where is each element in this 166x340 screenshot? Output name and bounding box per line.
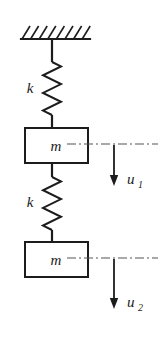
spring-2-label-k: k (27, 194, 34, 210)
displacement-u2-arrowhead (110, 298, 118, 309)
displacement-group: u 1 u 2 (67, 144, 158, 313)
displacement-u2-label: u (127, 294, 135, 310)
support-hatch-stroke (65, 26, 73, 39)
support-hatch-stroke (31, 26, 39, 39)
fixed-support-ceiling (21, 26, 90, 39)
support-hatch-stroke (39, 26, 47, 39)
support-hatching (22, 26, 90, 39)
spring-1-label-k: k (27, 80, 34, 96)
support-hatch-stroke (82, 26, 90, 39)
support-hatch-stroke (48, 26, 56, 39)
displacement-u2-subscript: 2 (138, 302, 143, 313)
displacement-u1-arrowhead (110, 175, 118, 186)
displacement-u1-label: u (127, 171, 135, 187)
support-hatch-stroke (22, 26, 30, 39)
spring-1-coil (43, 62, 61, 115)
diagram-canvas: k k m m u 1 u 2 (0, 0, 166, 340)
displacement-u1-subscript: 1 (138, 179, 143, 190)
support-hatch-stroke (74, 26, 82, 39)
mass-2-label-m: m (51, 252, 62, 268)
mass-1-label-m: m (51, 138, 62, 154)
spring-2-coil (43, 177, 61, 230)
support-hatch-stroke (56, 26, 64, 39)
mass-spring-diagram: k k m m u 1 u 2 (0, 0, 166, 340)
